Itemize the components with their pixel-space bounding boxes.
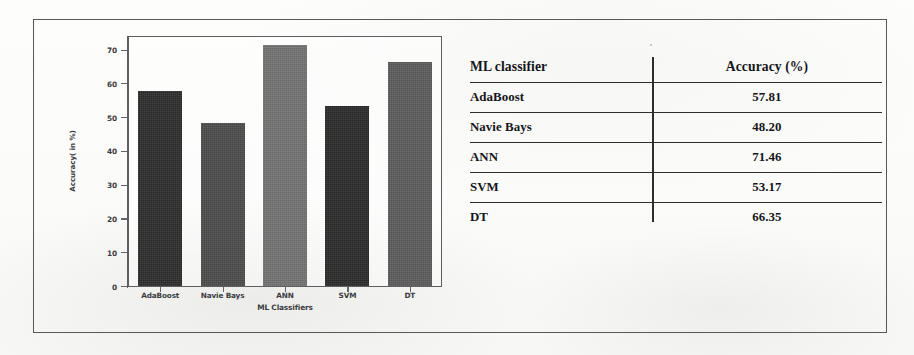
bar-svm	[325, 106, 369, 286]
y-axis-tick: 50	[121, 117, 127, 118]
y-axis-tick: 30	[121, 185, 127, 186]
cell-accuracy: 57.81	[652, 83, 882, 113]
y-axis-tick-label: 10	[107, 248, 117, 257]
x-axis-tick-label: SVM	[339, 291, 357, 300]
table-body: AdaBoost57.81Navie Bays48.20ANN71.46SVM5…	[470, 83, 882, 233]
column-header-accuracy: Accuracy (%)	[652, 52, 882, 83]
cell-accuracy: 48.20	[652, 113, 882, 143]
y-axis-tick-label: 30	[107, 181, 117, 190]
cell-classifier: DT	[470, 203, 652, 233]
y-axis-tick-label: 50	[107, 113, 117, 122]
y-axis-tick: 10	[121, 252, 127, 253]
cell-accuracy: 71.46	[652, 143, 882, 173]
bar-ann	[263, 45, 307, 286]
table-row: Navie Bays48.20	[470, 113, 882, 143]
table-row: DT66.35	[470, 203, 882, 233]
x-axis-tick-label: ANN	[276, 291, 293, 300]
cell-accuracy: 53.17	[652, 173, 882, 203]
bar-adaboost	[138, 91, 182, 286]
y-axis-tick: 0	[121, 286, 127, 287]
accuracy-table: ML classifier Accuracy (%) AdaBoost57.81…	[470, 52, 882, 227]
y-axis-tick: 20	[121, 218, 127, 219]
cell-classifier: SVM	[470, 173, 652, 203]
scan-speck	[650, 44, 652, 46]
column-header-classifier: ML classifier	[470, 52, 652, 83]
y-axis-tick-label: 20	[107, 215, 117, 224]
x-axis-tick-label: DT	[404, 291, 415, 300]
y-axis-tick: 60	[121, 83, 127, 84]
table-row: ANN71.46	[470, 143, 882, 173]
bar-series	[129, 36, 441, 286]
table-column-divider	[652, 57, 654, 222]
y-axis-tick-label: 40	[107, 147, 117, 156]
cell-accuracy: 66.35	[652, 203, 882, 233]
table-header: ML classifier Accuracy (%)	[470, 52, 882, 83]
y-axis-tick: 70	[121, 50, 127, 51]
y-axis-tick-label: 0	[112, 282, 117, 291]
table-row: SVM53.17	[470, 173, 882, 203]
bar-dt	[388, 62, 432, 286]
table-row: AdaBoost57.81	[470, 83, 882, 113]
x-axis-tick-label: Navie Bays	[201, 291, 245, 300]
bar-chart: Accuracy( in %) 010203040506070 AdaBoost…	[33, 19, 453, 333]
table-header-row: ML classifier Accuracy (%)	[470, 52, 882, 83]
bar-navie-bays	[201, 123, 245, 286]
cell-classifier: AdaBoost	[470, 83, 652, 113]
cell-classifier: Navie Bays	[470, 113, 652, 143]
y-axis-tick-label: 60	[107, 79, 117, 88]
y-axis-tick: 40	[121, 151, 127, 152]
cell-classifier: ANN	[470, 143, 652, 173]
y-axis-tick-label: 70	[107, 46, 117, 55]
x-axis-tick-label: AdaBoost	[141, 291, 179, 300]
table: ML classifier Accuracy (%) AdaBoost57.81…	[470, 52, 882, 232]
x-axis-title: ML Classifiers	[257, 303, 313, 312]
y-axis-title: Accuracy( in %)	[68, 130, 77, 191]
